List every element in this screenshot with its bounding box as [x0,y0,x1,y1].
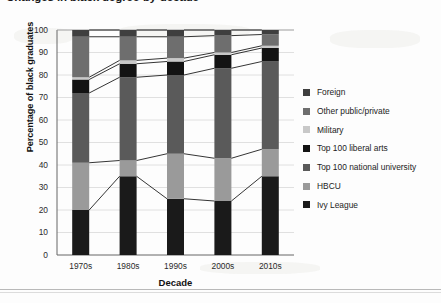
bar-segment [167,30,184,37]
bar-segment [167,62,184,76]
legend-swatch-icon [303,89,310,96]
connector-line [184,154,214,159]
bar-segment [167,37,184,58]
connector-line [137,62,167,64]
connector-line [89,176,119,210]
legend-label: Foreign [317,88,345,96]
bar-segment [120,161,137,177]
bar-segment [262,176,279,255]
bar-segment [120,30,137,37]
bar-segment [214,158,231,201]
connector-line [231,35,261,36]
bar-segment [262,35,279,46]
legend-label: Military [317,126,344,134]
legend-swatch-icon [303,145,310,152]
connector-line [184,36,214,37]
legend-item[interactable]: Foreign [303,88,416,96]
connector-line [89,77,119,93]
connector-line [89,161,119,163]
legend-item[interactable]: HBCU [303,182,416,190]
connector-line [231,62,261,69]
chart-page: Changes in black degree-by-decade Percen… [0,0,441,303]
legend-label: Other public/private [317,107,390,115]
bar-segment [262,149,279,176]
bar-segment [120,77,137,160]
connector-line [89,64,119,80]
bar-segment [214,55,231,69]
legend-swatch-icon [303,183,310,190]
legend-item[interactable]: Ivy League [303,201,416,209]
bar-segment [72,80,89,94]
legend-label: Top 100 national university [317,163,416,171]
connector-line [184,68,214,75]
bar-segment [262,48,279,62]
page-divider [0,289,441,290]
bar-segment [262,30,279,35]
bar-segment [167,199,184,255]
legend-label: HBCU [317,182,341,190]
bar-segment [72,210,89,255]
bar-segment [167,58,184,61]
connector-line [137,154,167,161]
bar-segment [120,64,137,78]
bar-segment [72,163,89,210]
bar-segment [262,46,279,48]
legend-swatch-icon [303,126,310,133]
legend-swatch-icon [303,201,310,208]
legend-item[interactable]: Top 100 national university [303,163,416,171]
connector-line [231,176,261,201]
page-divider-secondary [0,292,441,293]
bar-segment [120,37,137,61]
legend-label: Ivy League [317,201,358,209]
bar-segment [214,68,231,158]
legend-item[interactable]: Top 100 liberal arts [303,144,416,152]
bar-segment [167,154,184,199]
bar-segment [167,75,184,154]
bar-segment [214,53,231,55]
bar-segment [262,62,279,150]
bar-segment [120,60,137,63]
bar-segment [214,30,231,36]
connector-line [137,58,167,60]
bar-segment [72,30,89,37]
bar-segment [72,37,89,78]
legend-label: Top 100 liberal arts [317,144,388,152]
bar-segment [120,176,137,255]
legend-swatch-icon [303,164,310,171]
connector-line [184,199,214,201]
bar-segment [72,77,89,79]
bar-segment [72,93,89,163]
chart-legend: ForeignOther public/privateMilitaryTop 1… [303,88,416,220]
connector-line [231,149,261,158]
legend-item[interactable]: Other public/private [303,107,416,115]
bar-segment [214,36,231,53]
bar-segment [214,201,231,255]
legend-swatch-icon [303,108,310,115]
legend-item[interactable]: Military [303,126,416,134]
